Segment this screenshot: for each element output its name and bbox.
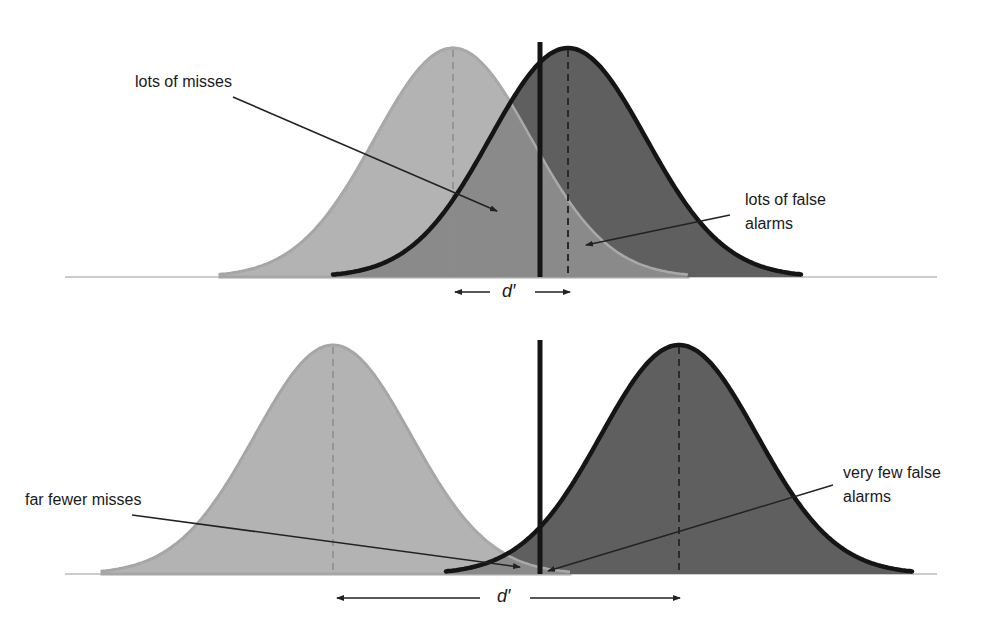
label-line-2: alarms xyxy=(745,212,826,236)
label-very-few-false-alarms: very few false alarms xyxy=(843,461,941,509)
dprime-label-top: d′ xyxy=(502,281,515,302)
label-line-1: lots of false xyxy=(745,188,826,212)
label-far-fewer-misses: far fewer misses xyxy=(25,488,141,512)
dprime-label-bottom: d′ xyxy=(497,586,510,607)
label-lots-of-misses: lots of misses xyxy=(135,70,232,94)
label-line-2: alarms xyxy=(843,485,941,509)
label-line-1: very few false xyxy=(843,461,941,485)
noise-distribution xyxy=(102,345,570,574)
signal-detection-diagram xyxy=(0,0,1004,629)
label-lots-of-false-alarms: lots of false alarms xyxy=(745,188,826,236)
panel-bottom-high-dprime xyxy=(65,340,937,598)
